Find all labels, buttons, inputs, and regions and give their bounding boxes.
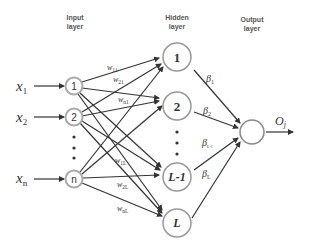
svg-text:βL: βL xyxy=(201,168,211,180)
svg-text:x2: x2 xyxy=(15,109,27,127)
input-x2: x2 xyxy=(15,109,64,127)
svg-text:w11: w11 xyxy=(107,63,118,73)
svg-text:L-1: L-1 xyxy=(167,170,185,184)
input-xn: xn xyxy=(15,170,64,188)
svg-text:1: 1 xyxy=(71,81,77,92)
hidden-layer-label: Hidden layer xyxy=(165,14,189,31)
svg-text:β1: β1 xyxy=(205,73,214,85)
input-node-1: 1 xyxy=(66,78,83,95)
svg-text:2: 2 xyxy=(174,99,181,114)
svg-text:wn1: wn1 xyxy=(118,95,129,105)
svg-text:2: 2 xyxy=(71,112,77,123)
svg-text:1: 1 xyxy=(174,50,181,65)
svg-text:xn: xn xyxy=(15,170,28,188)
hidden-node-1: 1 xyxy=(163,43,191,71)
input-layer-label: Input layer xyxy=(66,14,84,31)
svg-text:w2L: w2L xyxy=(117,180,129,190)
input-node-2: 2 xyxy=(66,109,83,126)
hidden-node-2: 2 xyxy=(163,92,191,120)
hidden-output-connections xyxy=(192,70,240,218)
output-node xyxy=(240,120,264,144)
svg-text:layer: layer xyxy=(244,25,261,33)
svg-text:n: n xyxy=(71,174,77,185)
svg-text:Input: Input xyxy=(66,14,84,22)
svg-text:βL-1: βL-1 xyxy=(201,137,213,149)
output-layer-label: Output layer xyxy=(241,16,265,33)
svg-text:layer: layer xyxy=(67,23,84,31)
svg-text:Hidden: Hidden xyxy=(165,14,189,21)
svg-text:w1L: w1L xyxy=(115,156,127,166)
svg-text:layer: layer xyxy=(169,23,186,31)
svg-text:β2: β2 xyxy=(202,105,211,117)
input-x1: x1 xyxy=(15,78,64,96)
neural-network-diagram: Input layer Hidden layer Output layer x1… xyxy=(0,0,312,251)
hidden-node-L: L xyxy=(163,209,191,237)
input-node-n: n xyxy=(66,171,83,188)
hidden-ellipsis xyxy=(175,130,178,155)
output-label: Oj xyxy=(275,114,287,129)
svg-text:w21: w21 xyxy=(113,75,124,85)
svg-text:x1: x1 xyxy=(15,78,27,96)
hidden-node-L-1: L-1 xyxy=(163,163,191,191)
svg-text:L: L xyxy=(172,216,180,230)
svg-text:wnL: wnL xyxy=(117,204,129,214)
input-ellipsis xyxy=(72,135,75,159)
svg-text:Output: Output xyxy=(241,16,265,24)
